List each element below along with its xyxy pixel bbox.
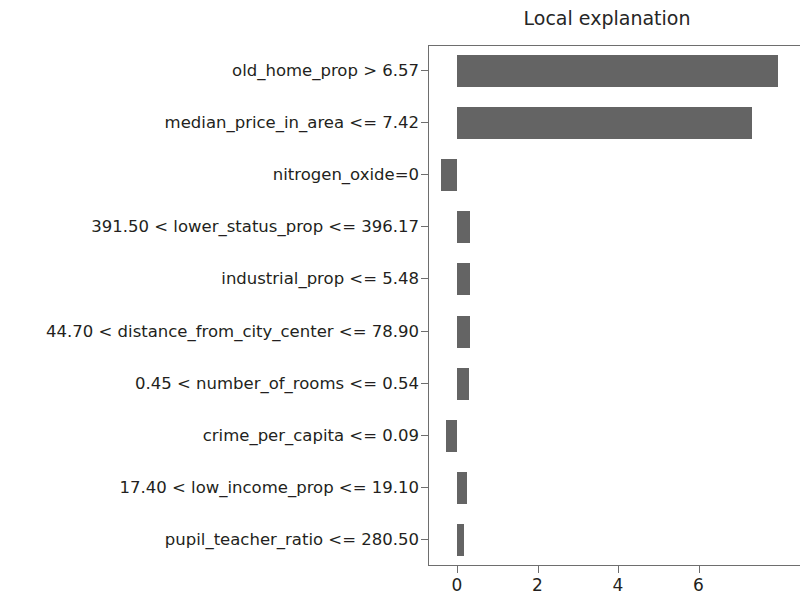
bar — [457, 263, 470, 295]
y-tick-label-row: industrial_prop <= 5.48 — [0, 268, 428, 290]
y-tick-mark — [421, 70, 428, 71]
bar — [457, 55, 778, 87]
y-tick-label: pupil_teacher_ratio <= 280.50 — [165, 529, 428, 551]
y-tick-label-row: pupil_teacher_ratio <= 280.50 — [0, 529, 428, 551]
y-tick-label: nitrogen_oxide=0 — [273, 164, 428, 186]
bar — [457, 524, 464, 556]
y-tick-label-row: median_price_in_area <= 7.42 — [0, 112, 428, 134]
x-tick-label: 4 — [613, 574, 624, 596]
y-tick-label: industrial_prop <= 5.48 — [221, 268, 428, 290]
y-tick-label: crime_per_capita <= 0.09 — [203, 425, 428, 447]
y-tick-label-row: 0.45 < number_of_rooms <= 0.54 — [0, 373, 428, 395]
y-tick-label-row: 17.40 < low_income_prop <= 19.10 — [0, 477, 428, 499]
bar — [457, 211, 470, 243]
y-tick-label: 391.50 < lower_status_prop <= 396.17 — [91, 216, 428, 238]
y-tick-mark — [421, 383, 428, 384]
y-tick-label-row: nitrogen_oxide=0 — [0, 164, 428, 186]
x-tick-label: 2 — [532, 574, 543, 596]
y-tick-label-row: 391.50 < lower_status_prop <= 396.17 — [0, 216, 428, 238]
x-axis-tick-labels: 0246 — [0, 566, 786, 605]
y-tick-label: old_home_prop > 6.57 — [232, 60, 428, 82]
y-tick-mark — [421, 487, 428, 488]
y-tick-mark — [421, 331, 428, 332]
y-tick-label-row: old_home_prop > 6.57 — [0, 60, 428, 82]
y-tick-mark — [421, 122, 428, 123]
y-tick-mark — [421, 174, 428, 175]
y-tick-mark — [421, 435, 428, 436]
y-tick-label-row: 44.70 < distance_from_city_center <= 78.… — [0, 321, 428, 343]
bar — [441, 159, 457, 191]
bar — [457, 368, 469, 400]
y-tick-mark — [421, 539, 428, 540]
y-tick-label: median_price_in_area <= 7.42 — [165, 112, 428, 134]
x-tick-label: 6 — [693, 574, 704, 596]
bar — [457, 472, 467, 504]
y-tick-label-row: crime_per_capita <= 0.09 — [0, 425, 428, 447]
y-tick-label: 17.40 < low_income_prop <= 19.10 — [120, 477, 429, 499]
y-tick-mark — [421, 278, 428, 279]
y-tick-label: 0.45 < number_of_rooms <= 0.54 — [135, 373, 428, 395]
bar — [446, 420, 457, 452]
x-tick-mark — [699, 566, 700, 573]
bar — [457, 107, 752, 139]
x-tick-label: 0 — [452, 574, 463, 596]
y-tick-mark — [421, 226, 428, 227]
bar-series — [428, 45, 800, 565]
y-tick-label: 44.70 < distance_from_city_center <= 78.… — [46, 321, 428, 343]
bar — [457, 316, 470, 348]
x-tick-mark — [618, 566, 619, 573]
x-tick-mark — [457, 566, 458, 573]
page-title: Local explanation — [428, 6, 786, 30]
y-axis-tick-labels: old_home_prop > 6.57median_price_in_area… — [0, 45, 428, 566]
x-tick-mark — [538, 566, 539, 573]
